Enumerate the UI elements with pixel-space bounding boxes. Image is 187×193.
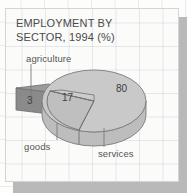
chart-figure: EMPLOYMENT BY SECTOR, 1994 (%) xyxy=(0,0,187,193)
pie-label-agriculture: agriculture xyxy=(26,53,71,64)
pie-label-goods: goods xyxy=(24,141,50,152)
pie-value-goods: 17 xyxy=(62,92,73,103)
pie-label-services: services xyxy=(98,148,134,159)
pie-value-services: 80 xyxy=(116,83,127,94)
pie-value-agriculture: 3 xyxy=(27,95,33,106)
